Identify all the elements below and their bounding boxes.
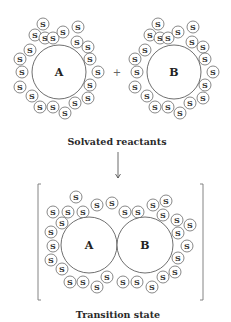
molecule-b-label: B <box>169 66 178 79</box>
solvent-label: S <box>59 218 65 228</box>
solvent-label: S <box>95 67 101 77</box>
solvent-molecule: S <box>184 219 196 231</box>
solvent-molecule: S <box>187 21 199 33</box>
transition-state-caption: Transition state <box>76 309 160 320</box>
solvent-label: S <box>147 30 153 40</box>
solvent-label: S <box>163 196 169 206</box>
solvent-label: S <box>104 272 110 282</box>
molecule-b: B <box>147 45 201 99</box>
solvent-label: S <box>210 67 216 77</box>
transition-molecule-b: B <box>117 217 173 273</box>
left-bracket <box>38 184 41 300</box>
solvent-label: S <box>62 108 68 118</box>
solvent-label: S <box>149 282 155 292</box>
solvent-molecule: S <box>172 26 184 38</box>
solvent-label: S <box>135 207 141 217</box>
solvent-molecule: S <box>71 36 83 48</box>
solvent-label: S <box>94 200 100 210</box>
solvent-label: S <box>87 54 93 64</box>
solvent-label: S <box>175 228 181 238</box>
solvent-molecule: S <box>69 97 81 109</box>
solvent-molecule: S <box>91 281 103 293</box>
solvent-molecule: S <box>129 53 141 65</box>
solvent-label: S <box>142 45 148 55</box>
solvent-molecule: S <box>186 36 198 48</box>
solvent-molecule: S <box>199 79 211 91</box>
solvent-molecule: S <box>47 206 59 218</box>
solvent-molecule: S <box>56 217 68 229</box>
solvent-molecule: S <box>62 206 74 218</box>
solvent-molecule: S <box>197 41 209 53</box>
solvent-label: S <box>202 80 208 90</box>
solvent-molecule: S <box>106 197 118 209</box>
solvent-molecule: S <box>172 252 184 264</box>
solvent-molecule: S <box>157 209 169 221</box>
solvent-molecule: S <box>181 240 193 252</box>
solvent-label: S <box>109 198 115 208</box>
solvent-molecule: S <box>56 263 68 275</box>
solvent-label: S <box>32 30 38 40</box>
solvent-label: S <box>202 54 208 64</box>
solvent-molecule: S <box>45 254 57 266</box>
solvent-molecule: S <box>207 66 219 78</box>
solvent-label: S <box>165 33 171 43</box>
solvent-label: S <box>122 207 128 217</box>
solvent-label: S <box>19 67 25 77</box>
solvent-molecule: S <box>119 206 131 218</box>
solvent-molecule: S <box>84 53 96 65</box>
solvent-label: S <box>74 37 80 47</box>
solvent-molecule: S <box>117 276 129 288</box>
solvent-molecule: S <box>171 214 183 226</box>
solvent-label: S <box>144 91 150 101</box>
solvent-molecule: S <box>14 81 26 93</box>
solvent-molecule: S <box>172 227 184 239</box>
solvent-label: S <box>134 67 140 77</box>
molecule-a-label: A <box>54 66 64 79</box>
solvent-label: S <box>59 264 65 274</box>
solvent-label: S <box>189 37 195 47</box>
solvent-label: S <box>152 102 158 112</box>
solvent-molecule: S <box>129 81 141 93</box>
solvent-label: S <box>72 98 78 108</box>
solvent-label: S <box>73 192 79 202</box>
solvent-molecule: S <box>45 226 57 238</box>
solvent-label: S <box>50 102 56 112</box>
down-arrow-icon <box>116 152 121 178</box>
solvent-label: S <box>27 45 33 55</box>
solvent-molecule: S <box>57 26 69 38</box>
solvent-label: S <box>174 215 180 225</box>
solvent-molecule: S <box>14 53 26 65</box>
solvent-label: S <box>40 19 46 29</box>
solvent-molecule: S <box>162 101 174 113</box>
solvation-diagram: SSSSSSSSSSSSSSSSSSSSS A + SSSSSSSSSSSSSS… <box>0 0 231 322</box>
solvent-molecule: S <box>149 101 161 113</box>
solvent-molecule: S <box>131 66 143 78</box>
solvent-molecule: S <box>131 276 143 288</box>
solvent-molecule: S <box>82 92 94 104</box>
solvent-label: S <box>17 82 23 92</box>
solvent-molecule: S <box>132 206 144 218</box>
solvent-label: S <box>50 241 56 251</box>
solvent-label: S <box>80 207 86 217</box>
solvent-label: S <box>48 255 54 265</box>
solvent-label: S <box>60 27 66 37</box>
solvent-molecule: S <box>147 199 159 211</box>
solvent-label: S <box>120 277 126 287</box>
solvent-molecule: S <box>59 107 71 119</box>
transition-molecule-a: A <box>61 217 117 273</box>
solvent-label: S <box>165 102 171 112</box>
solvent-molecule: S <box>24 44 36 56</box>
solvent-molecule: S <box>152 18 164 30</box>
solvent-molecule: S <box>16 66 28 78</box>
solvent-label: S <box>160 272 166 282</box>
solvent-label: S <box>80 277 86 287</box>
solvent-label: S <box>132 54 138 64</box>
molecule-a: A <box>32 45 86 99</box>
solvent-label: S <box>85 42 91 52</box>
solvent-molecule: S <box>101 271 113 283</box>
solvent-label: S <box>177 108 183 118</box>
solvent-molecule: S <box>169 266 181 278</box>
solvent-molecule: S <box>37 18 49 30</box>
solvent-molecule: S <box>84 79 96 91</box>
solvent-label: S <box>155 19 161 29</box>
